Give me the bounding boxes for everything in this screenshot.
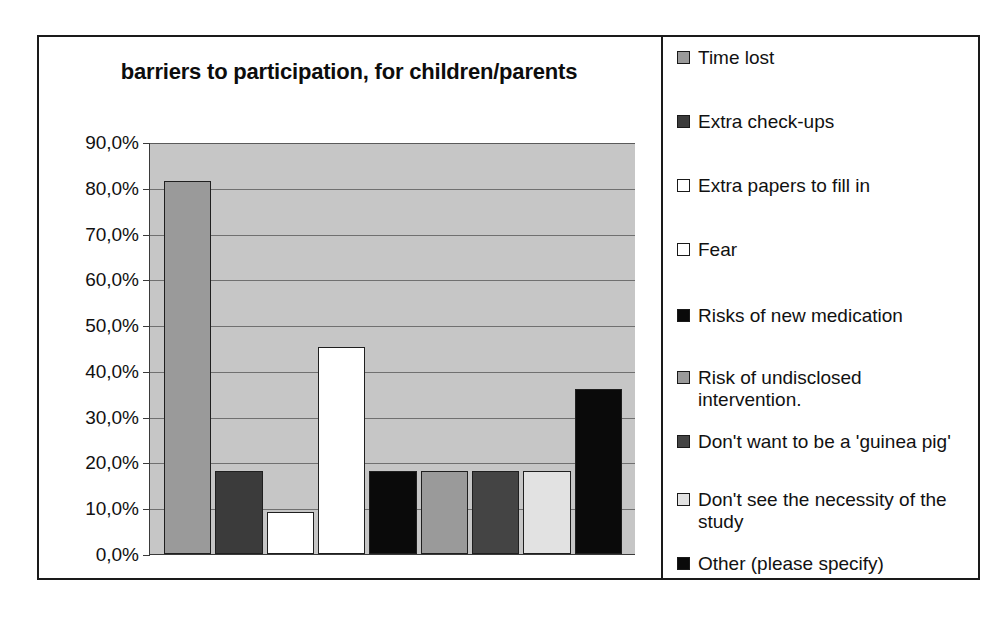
gridline [150,372,635,373]
legend-item[interactable]: Risk of undisclosed intervention. [677,367,972,411]
y-axis-tick-label: 40,0% [85,361,139,383]
legend-item-label: Don't want to be a 'guinea pig' [698,431,951,453]
bar-2[interactable] [215,471,262,554]
legend-item-label: Extra check-ups [698,111,834,133]
y-axis-tick [143,326,150,327]
legend-item-label: Other (please specify) [698,553,884,575]
legend-swatch-icon [677,115,690,128]
plot-area [149,143,635,555]
y-axis-tick [143,235,150,236]
legend-swatch-icon [677,243,690,256]
legend-swatch-icon [677,493,690,506]
legend-item[interactable]: Don't see the necessity of the study [677,489,972,533]
legend-item-label: Risks of new medication [698,305,903,327]
legend-item-label: Don't see the necessity of the study [698,489,947,533]
legend-swatch-icon [677,557,690,570]
bar-5[interactable] [369,471,416,554]
gridline [150,235,635,236]
legend-item[interactable]: Extra papers to fill in [677,175,972,197]
y-axis-tick-label: 0,0% [96,544,139,566]
y-axis-tick-label: 20,0% [85,452,139,474]
gridline [150,326,635,327]
plot-region: barriers to participation, for children/… [39,37,659,578]
legend-item[interactable]: Risks of new medication [677,305,972,327]
legend-item[interactable]: Other (please specify) [677,553,972,575]
chart-title: barriers to participation, for children/… [39,59,659,85]
chart-frame: barriers to participation, for children/… [37,35,980,580]
bar-9[interactable] [575,389,622,554]
legend-item[interactable]: Extra check-ups [677,111,972,133]
bar-1[interactable] [164,181,211,554]
gridline [150,143,635,144]
bar-4[interactable] [318,347,365,554]
y-axis-tick [143,555,150,556]
legend-swatch-icon [677,309,690,322]
y-axis-tick [143,143,150,144]
legend-swatch-icon [677,371,690,384]
gridline [150,189,635,190]
legend-item[interactable]: Fear [677,239,972,261]
bar-8[interactable] [523,471,570,554]
y-axis-tick [143,463,150,464]
gridline [150,463,635,464]
y-axis-tick [143,372,150,373]
y-axis-tick [143,189,150,190]
legend-swatch-icon [677,179,690,192]
chart-legend: Time lostExtra check-upsExtra papers to … [661,37,978,578]
gridline [150,418,635,419]
y-axis-tick-label: 30,0% [85,407,139,429]
bar-7[interactable] [472,471,519,554]
y-axis-tick [143,509,150,510]
y-axis-tick-label: 80,0% [85,178,139,200]
legend-swatch-icon [677,51,690,64]
legend-item[interactable]: Don't want to be a 'guinea pig' [677,431,972,453]
y-axis-tick-label: 60,0% [85,269,139,291]
y-axis-tick-label: 50,0% [85,315,139,337]
y-axis-tick [143,418,150,419]
y-axis-tick-label: 90,0% [85,132,139,154]
bar-3[interactable] [267,512,314,554]
legend-item-label: Time lost [698,47,774,69]
gridline [150,280,635,281]
y-axis-tick-label: 10,0% [85,498,139,520]
y-axis-tick [143,280,150,281]
legend-item-label: Fear [698,239,737,261]
y-axis-tick-labels: 90,0%80,0%70,0%60,0%50,0%40,0%30,0%20,0%… [39,143,139,554]
legend-swatch-icon [677,435,690,448]
legend-item-label: Risk of undisclosed intervention. [698,367,862,411]
legend-item-label: Extra papers to fill in [698,175,870,197]
y-axis-tick-label: 70,0% [85,224,139,246]
legend-item[interactable]: Time lost [677,47,972,69]
bar-6[interactable] [421,471,468,554]
